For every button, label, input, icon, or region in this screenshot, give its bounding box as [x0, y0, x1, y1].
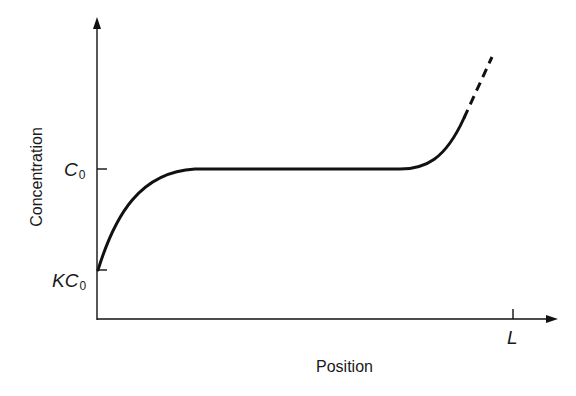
y-axis-label: Concentration: [28, 127, 46, 227]
concentration-curve-solid: [98, 118, 464, 270]
kc0-main: KC: [52, 270, 78, 291]
c0-subscript: 0: [79, 168, 86, 182]
l-tick-label: L: [507, 327, 518, 349]
concentration-curve-dashed: [464, 57, 492, 118]
concentration-profile-diagram: [0, 0, 576, 396]
x-axis-label: Position: [316, 358, 373, 376]
c0-main: C: [64, 159, 78, 180]
c0-tick-label: C0: [64, 159, 85, 182]
kc0-tick-label: KC0: [52, 270, 86, 293]
x-axis-arrow-icon: [546, 315, 558, 323]
kc0-subscript: 0: [79, 279, 86, 293]
y-axis-arrow-icon: [93, 17, 101, 29]
